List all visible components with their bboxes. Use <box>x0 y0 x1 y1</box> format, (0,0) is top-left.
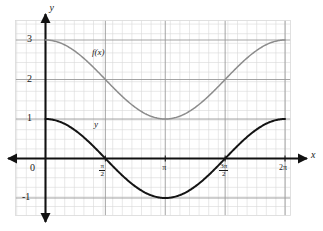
graph-figure: 3210-1π2π3π22πyxf(x)y <box>0 0 323 231</box>
x-tick-label-pi: π <box>162 164 166 172</box>
y-tick-label-neg1: -1 <box>22 192 30 202</box>
y-tick-label-1: 1 <box>27 113 32 123</box>
curve-label-y: y <box>94 120 98 129</box>
y-tick-label-3: 3 <box>27 34 32 44</box>
x-tick-label-pi-over-2: π2 <box>99 163 105 179</box>
x-tick-label-2pi: 2π <box>279 164 287 172</box>
curve-label-fx: f(x) <box>92 48 105 57</box>
plot-canvas <box>0 0 323 231</box>
x-tick-label-3pi-over-2: 3π2 <box>219 163 228 179</box>
y-tick-label-2: 2 <box>27 74 32 84</box>
plot-background <box>16 21 291 216</box>
x-axis-label: x <box>311 150 315 160</box>
y-tick-label-0: 0 <box>30 163 35 173</box>
y-axis-label: y <box>50 3 54 13</box>
